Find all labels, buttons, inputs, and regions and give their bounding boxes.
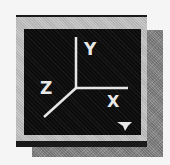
triangle-down-icon[interactable] [117, 121, 132, 132]
y-axis-label: Y [84, 41, 96, 58]
x-axis-label: X [107, 93, 119, 110]
axes-icon [0, 0, 170, 165]
z-axis-label: Z [40, 80, 52, 97]
axis-widget-stage: Y Z X [0, 0, 170, 165]
